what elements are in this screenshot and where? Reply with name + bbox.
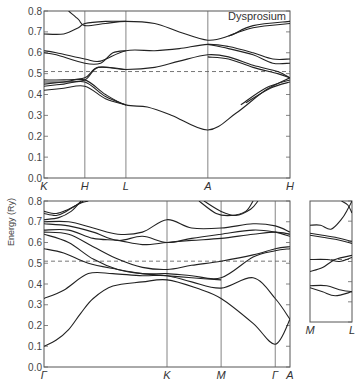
energy-band bbox=[310, 255, 352, 271]
x-tick-label: H bbox=[286, 180, 294, 192]
energy-band bbox=[204, 201, 258, 216]
y-tick-label: 0.2 bbox=[28, 131, 42, 142]
y-tick-label: 0.8 bbox=[28, 6, 42, 17]
panel-bottom: 0.00.10.20.30.40.50.60.70.8ΓKMΓA bbox=[28, 196, 294, 382]
energy-band bbox=[208, 44, 290, 63]
x-tick-label: K bbox=[163, 369, 171, 381]
y-tick-label: 0.6 bbox=[28, 47, 42, 58]
y-tick-label: 0.3 bbox=[28, 110, 42, 121]
y-tick-label: 0.4 bbox=[28, 89, 42, 100]
y-axis-label: Energy (Ry) bbox=[6, 198, 16, 246]
chart-title: Dysprosium bbox=[228, 10, 286, 22]
x-tick-label: A bbox=[203, 180, 211, 192]
energy-band bbox=[310, 285, 352, 291]
y-tick-label: 0.8 bbox=[28, 196, 42, 207]
x-tick-label: H bbox=[81, 180, 89, 192]
y-tick-label: 0.6 bbox=[28, 237, 42, 248]
energy-band bbox=[44, 201, 83, 216]
x-tick-label: Γ bbox=[41, 369, 48, 381]
x-tick-label: K bbox=[40, 180, 48, 192]
energy-band bbox=[44, 201, 81, 220]
energy-band bbox=[229, 24, 291, 37]
energy-band bbox=[310, 201, 352, 229]
band-structure-chart: 0.00.10.20.30.40.50.60.70.8KHLAH 0.00.10… bbox=[0, 0, 361, 386]
x-tick-label: M bbox=[305, 324, 315, 336]
panel-top: 0.00.10.20.30.40.50.60.70.8KHLAH bbox=[28, 6, 294, 193]
y-tick-label: 0.2 bbox=[28, 320, 42, 331]
energy-band bbox=[44, 44, 290, 61]
x-tick-label: A bbox=[285, 369, 293, 381]
x-tick-label: Γ bbox=[272, 369, 279, 381]
y-tick-label: 0.4 bbox=[28, 279, 42, 290]
y-tick-label: 0.5 bbox=[28, 258, 42, 269]
y-tick-label: 0.7 bbox=[28, 26, 42, 37]
plot-frame bbox=[44, 11, 290, 178]
energy-band bbox=[208, 57, 290, 78]
y-tick-label: 0.3 bbox=[28, 299, 42, 310]
y-tick-label: 0.1 bbox=[28, 341, 42, 352]
energy-band bbox=[310, 233, 352, 241]
y-tick-label: 0.1 bbox=[28, 152, 42, 163]
panel-side: ML bbox=[305, 201, 355, 336]
y-tick-label: 0.7 bbox=[28, 216, 42, 227]
x-tick-label: L bbox=[123, 180, 129, 192]
y-tick-label: 0.5 bbox=[28, 68, 42, 79]
x-tick-label: L bbox=[349, 324, 355, 336]
energy-band bbox=[310, 288, 352, 296]
x-tick-label: M bbox=[217, 369, 227, 381]
